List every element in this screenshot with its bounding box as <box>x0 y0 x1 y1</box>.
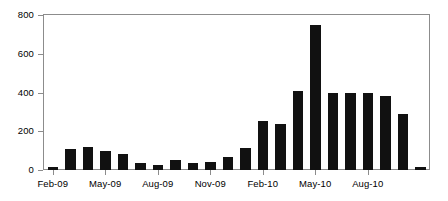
bar <box>65 149 76 170</box>
x-tick-mark <box>158 170 159 175</box>
x-tick-label: Nov-09 <box>180 178 240 189</box>
bar <box>83 147 94 170</box>
y-tick-label: 600 <box>0 49 34 59</box>
bar-chart: 0200400600800 Feb-09May-09Aug-09Nov-09Fe… <box>0 0 448 201</box>
x-tick-mark <box>315 170 316 175</box>
y-tick-mark <box>38 131 43 132</box>
y-tick-mark <box>38 93 43 94</box>
y-tick-label: 0 <box>0 165 34 175</box>
y-tick-label: 800 <box>0 10 34 20</box>
bar <box>415 167 426 170</box>
bar <box>345 93 356 171</box>
bar <box>205 162 216 170</box>
x-tick-label: Aug-09 <box>128 178 188 189</box>
y-tick-mark <box>38 15 43 16</box>
y-tick-mark <box>38 170 43 171</box>
bar <box>223 157 234 170</box>
bar <box>188 163 199 170</box>
bar <box>135 163 146 170</box>
y-tick-label: 400 <box>0 88 34 98</box>
bars-layer <box>44 15 429 170</box>
bar <box>380 96 391 170</box>
x-tick-mark <box>263 170 264 175</box>
bar <box>293 91 304 170</box>
bar <box>310 25 321 170</box>
x-tick-label: Aug-10 <box>338 178 398 189</box>
bar <box>398 114 409 170</box>
x-tick-mark <box>53 170 54 175</box>
x-tick-mark <box>210 170 211 175</box>
y-tick-label: 200 <box>0 126 34 136</box>
bar <box>240 148 251 170</box>
x-tick-label: Feb-10 <box>233 178 293 189</box>
x-tick-label: May-10 <box>285 178 345 189</box>
bar <box>100 151 111 170</box>
x-tick-mark <box>368 170 369 175</box>
bar <box>118 154 129 170</box>
bar <box>258 121 269 170</box>
bar <box>170 160 181 170</box>
x-tick-label: May-09 <box>75 178 135 189</box>
bar <box>275 124 286 171</box>
bar <box>328 93 339 171</box>
bar <box>363 93 374 171</box>
x-tick-mark <box>105 170 106 175</box>
y-tick-mark <box>38 54 43 55</box>
x-tick-label: Feb-09 <box>23 178 83 189</box>
